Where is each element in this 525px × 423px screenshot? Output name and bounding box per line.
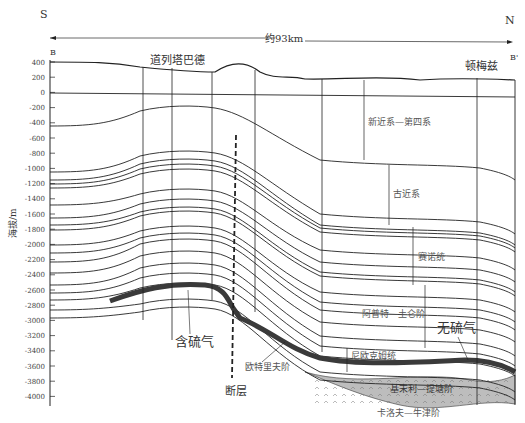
fault-label: 断层 <box>225 384 247 398</box>
south-label: S <box>40 8 48 21</box>
label-neocomian: 尼欧克姆统 <box>351 350 396 361</box>
stratum-horizon <box>50 239 515 330</box>
distance-arrow-right <box>305 41 510 42</box>
label-neogene-quaternary: 新近系—第四系 <box>368 116 431 127</box>
y-tick-label: -800 <box>29 150 45 158</box>
stratum-horizon <box>50 159 515 245</box>
y-axis-label: 海拔/m <box>7 208 18 238</box>
stratum-horizon <box>50 164 515 248</box>
y-tick-label: 400 <box>32 59 45 67</box>
y-tick-label: -2600 <box>25 287 45 295</box>
sour-gas-leader <box>188 290 190 334</box>
endpoint-b: B <box>50 48 56 57</box>
north-label: N <box>505 14 515 27</box>
y-tick-label: -4000 <box>25 393 45 401</box>
topography-line <box>50 62 515 80</box>
label-kimmeridgian-tithonian: 基末利—提塘阶 <box>390 383 453 394</box>
label-senonian: 赛诺统 <box>418 251 445 262</box>
y-tick-label: -2000 <box>25 241 45 249</box>
y-tick-label: -200 <box>29 104 45 112</box>
y-tick-label: -2800 <box>25 302 45 310</box>
sea-level-line <box>50 93 515 97</box>
y-tick-label: -1600 <box>25 211 45 219</box>
y-tick-label: -600 <box>29 135 45 143</box>
y-tick-label: -3000 <box>25 317 45 325</box>
y-tick-label: -3600 <box>25 363 45 371</box>
geologic-cross-section: S N 约93km B B' 道列塔巴德 顿梅兹 4002000-200-400… <box>0 0 525 423</box>
y-tick-label: -2400 <box>25 271 45 279</box>
y-tick-label: -3800 <box>25 378 45 386</box>
sour-gas-label: 含硫气 <box>175 334 214 349</box>
place-daulatabad: 道列塔巴德 <box>150 53 205 67</box>
y-tick-label: -1400 <box>25 195 45 203</box>
place-donmez: 顿梅兹 <box>465 59 498 73</box>
arrow-head-left-icon <box>50 36 56 40</box>
strata-lines <box>50 106 515 400</box>
sweet-gas-label: 无硫气 <box>437 320 476 335</box>
stratum-horizon <box>50 151 515 234</box>
label-aptian-turonian: 阿普特—土仑阶 <box>362 308 425 319</box>
distance-label: 约93km <box>265 32 304 44</box>
label-hauterivian: 欧特里夫阶 <box>245 361 290 372</box>
stratum-horizon <box>50 189 515 270</box>
y-tick-label: 0 <box>41 89 45 97</box>
y-tick-label: -400 <box>29 119 45 127</box>
label-paleogene: 古近系 <box>393 188 420 199</box>
label-callovian-oxfordian: 卡洛夫—牛津阶 <box>377 407 440 418</box>
y-tick-label: -1200 <box>25 180 45 188</box>
y-tick-label: -2200 <box>25 256 45 264</box>
y-tick-label: 200 <box>32 74 45 82</box>
stratum-horizon <box>50 106 515 180</box>
sweet-gas-leader <box>458 337 468 360</box>
y-tick-label: -1800 <box>25 226 45 234</box>
endpoint-b-prime: B' <box>510 53 518 62</box>
y-tick-label: -1000 <box>25 165 45 173</box>
y-tick-label: -3200 <box>25 332 45 340</box>
arrow-head-right-icon <box>507 40 513 44</box>
hauterivian-leader <box>262 342 285 362</box>
y-tick-label: -3400 <box>25 347 45 355</box>
y-axis: 4002000-200-400-600-800-1000-1200-1400-1… <box>7 59 55 407</box>
stratum-horizon <box>50 299 515 392</box>
